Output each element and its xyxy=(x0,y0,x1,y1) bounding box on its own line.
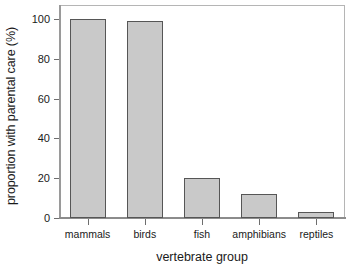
x-tick-label-amphibians: amphibians xyxy=(232,228,286,240)
y-tick-label: 80 xyxy=(18,53,50,64)
y-tick-label: 100 xyxy=(18,13,50,24)
x-tick-mark xyxy=(88,219,89,225)
y-tick-mark xyxy=(54,99,59,100)
x-tick-label-birds: birds xyxy=(133,228,156,240)
y-tick-mark xyxy=(54,138,59,139)
bar-mammals xyxy=(70,19,106,218)
y-axis-tick-labels: 020406080100 xyxy=(18,0,50,273)
y-tick-mark xyxy=(54,19,59,20)
y-tick-mark xyxy=(54,59,59,60)
bar-amphibians xyxy=(241,194,277,218)
x-axis-title: vertebrate group xyxy=(59,250,345,265)
x-tick-label-reptiles: reptiles xyxy=(299,228,333,240)
bar-reptiles xyxy=(298,212,334,218)
x-tick-mark xyxy=(145,219,146,225)
y-tick-mark xyxy=(54,178,59,179)
y-tick-label: 20 xyxy=(18,173,50,184)
bar-series xyxy=(59,5,345,218)
x-tick-label-mammals: mammals xyxy=(65,228,111,240)
y-tick-mark xyxy=(54,218,59,219)
x-tick-mark xyxy=(316,219,317,225)
y-tick-label: 0 xyxy=(18,213,50,224)
x-tick-mark xyxy=(259,219,260,225)
x-tick-mark xyxy=(202,219,203,225)
y-tick-label: 60 xyxy=(18,93,50,104)
bar-chart-figure: proportion with parental care (%) 020406… xyxy=(0,0,354,273)
bar-birds xyxy=(127,21,163,218)
x-tick-label-fish: fish xyxy=(194,228,210,240)
bar-fish xyxy=(184,178,220,218)
y-tick-label: 40 xyxy=(18,133,50,144)
